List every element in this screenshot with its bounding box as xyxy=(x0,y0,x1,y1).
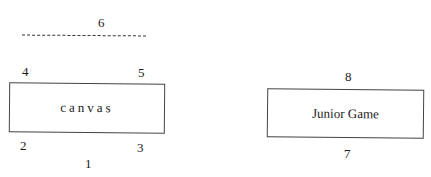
canvas-box: canvas xyxy=(9,82,165,133)
reference-label-1: 1 xyxy=(85,157,92,170)
junior-game-box: Junior Game xyxy=(267,88,425,139)
canvas-box-label: canvas xyxy=(60,100,114,116)
reference-label-3: 3 xyxy=(137,141,144,154)
reference-label-4: 4 xyxy=(22,65,29,78)
junior-game-box-label: Junior Game xyxy=(312,105,379,122)
reference-label-5: 5 xyxy=(138,66,145,79)
reference-label-8: 8 xyxy=(345,70,352,83)
reference-label-2: 2 xyxy=(20,139,27,152)
reference-label-6: 6 xyxy=(98,16,105,29)
reference-label-7: 7 xyxy=(344,147,351,160)
dashed-divider xyxy=(22,35,146,37)
